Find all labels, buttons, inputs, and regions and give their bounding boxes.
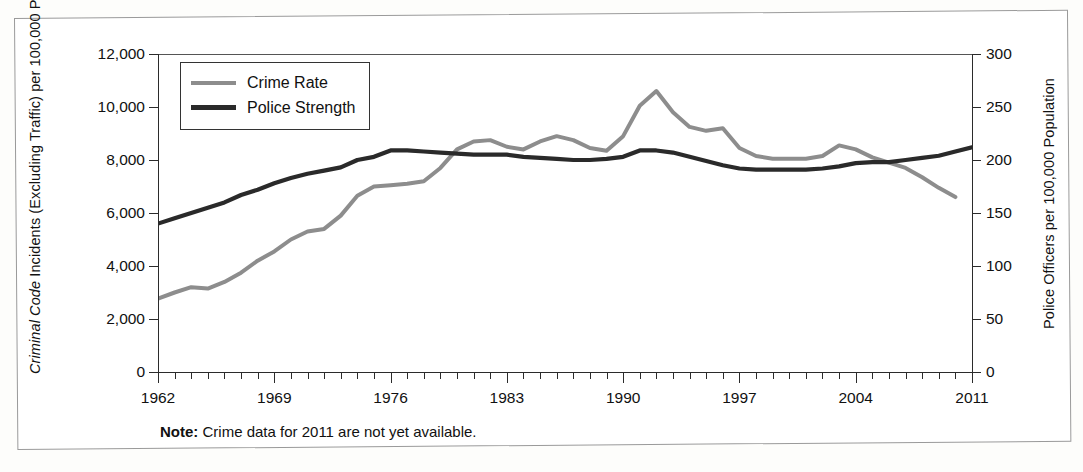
- x-tick-minor: [308, 372, 309, 379]
- x-tick-minor: [490, 372, 491, 379]
- y-tick-left: [149, 160, 158, 161]
- x-tick-minor: [773, 372, 774, 379]
- line-chart: Criminal Code Incidents (Excluding Traff…: [0, 0, 1083, 472]
- x-tick-minor: [474, 372, 475, 379]
- y-tick-left: [149, 54, 158, 55]
- y-tick-label-left: 12,000: [98, 45, 145, 63]
- y-tick-label-right: 0: [986, 363, 995, 381]
- x-tick-minor: [906, 372, 907, 379]
- x-tick-minor: [955, 372, 956, 379]
- y-axis-left-title-italic: Criminal Code: [27, 281, 43, 374]
- x-tick-minor: [723, 372, 724, 379]
- x-tick-minor: [241, 372, 242, 379]
- y-tick-label-left: 2,000: [106, 310, 145, 328]
- y-tick-label-left: 6,000: [106, 204, 145, 222]
- x-tick-minor: [457, 372, 458, 379]
- y-tick-right: [972, 213, 981, 214]
- y-tick-label-right: 150: [986, 204, 1012, 222]
- legend-label-police-strength: Police Strength: [247, 99, 356, 117]
- y-tick-label-right: 50: [986, 310, 1003, 328]
- x-tick-minor: [424, 372, 425, 379]
- x-tick-minor: [557, 372, 558, 379]
- y-axis-left-title-rest: Incidents (Excluding Traffic) per 100,00…: [27, 0, 43, 281]
- x-tick-major: [856, 372, 857, 383]
- y-tick-left: [149, 372, 158, 373]
- x-tick-minor: [341, 372, 342, 379]
- y-tick-right: [972, 319, 981, 320]
- x-tick-minor: [839, 372, 840, 379]
- x-tick-major: [274, 372, 275, 383]
- y-axis-left-title: Criminal Code Incidents (Excluding Traff…: [26, 34, 44, 374]
- x-tick-minor: [822, 372, 823, 379]
- y-tick-right: [972, 54, 981, 55]
- y-tick-right: [972, 266, 981, 267]
- y-tick-right: [972, 372, 981, 373]
- x-tick-label: 1962: [141, 389, 175, 407]
- legend: Crime Rate Police Strength: [180, 62, 370, 130]
- legend-label-crime-rate: Crime Rate: [247, 74, 328, 92]
- x-tick-major: [391, 372, 392, 383]
- x-tick-label: 1976: [373, 389, 407, 407]
- x-tick-minor: [357, 372, 358, 379]
- x-tick-minor: [540, 372, 541, 379]
- x-tick-minor: [440, 372, 441, 379]
- chart-note-prefix: Note:: [160, 423, 198, 440]
- legend-swatch-crime-rate: [191, 81, 236, 85]
- x-tick-minor: [806, 372, 807, 379]
- x-axis-line: [158, 372, 972, 373]
- x-tick-label: 1969: [257, 389, 291, 407]
- x-tick-label: 1990: [606, 389, 640, 407]
- x-tick-minor: [291, 372, 292, 379]
- legend-item-police-strength: Police Strength: [191, 95, 359, 120]
- x-tick-minor: [258, 372, 259, 379]
- x-tick-minor: [640, 372, 641, 379]
- x-tick-minor: [789, 372, 790, 379]
- y-tick-label-right: 250: [986, 98, 1012, 116]
- y-tick-right: [972, 107, 981, 108]
- x-tick-minor: [673, 372, 674, 379]
- x-tick-minor: [706, 372, 707, 379]
- x-tick-minor: [607, 372, 608, 379]
- x-tick-minor: [590, 372, 591, 379]
- x-tick-major: [972, 372, 973, 383]
- y-tick-label-right: 300: [986, 45, 1012, 63]
- y-tick-left: [149, 213, 158, 214]
- chart-note-text: Crime data for 2011 are not yet availabl…: [198, 423, 476, 440]
- x-tick-label: 1997: [722, 389, 756, 407]
- plot-top-rule: [158, 54, 972, 55]
- y-tick-left: [149, 319, 158, 320]
- y-tick-left: [149, 107, 158, 108]
- x-tick-minor: [690, 372, 691, 379]
- x-tick-minor: [573, 372, 574, 379]
- y-tick-label-left: 8,000: [106, 151, 145, 169]
- series-line-police-strength: [158, 147, 972, 223]
- x-tick-minor: [374, 372, 375, 379]
- y-axis-right-title: Police Officers per 100,000 Population: [1040, 34, 1058, 374]
- x-tick-minor: [208, 372, 209, 379]
- x-tick-major: [623, 372, 624, 383]
- x-tick-minor: [756, 372, 757, 379]
- x-tick-label: 2004: [838, 389, 872, 407]
- x-tick-minor: [922, 372, 923, 379]
- x-tick-minor: [324, 372, 325, 379]
- y-tick-label-left: 10,000: [98, 98, 145, 116]
- chart-note: Note: Crime data for 2011 are not yet av…: [160, 423, 477, 440]
- x-tick-label: 1983: [490, 389, 524, 407]
- x-tick-minor: [889, 372, 890, 379]
- x-tick-minor: [191, 372, 192, 379]
- x-tick-minor: [523, 372, 524, 379]
- y-tick-label-left: 0: [136, 363, 145, 381]
- x-tick-minor: [872, 372, 873, 379]
- x-tick-minor: [175, 372, 176, 379]
- x-tick-minor: [656, 372, 657, 379]
- x-tick-label: 2011: [955, 389, 988, 407]
- y-tick-label-right: 200: [986, 151, 1012, 169]
- legend-item-crime-rate: Crime Rate: [191, 70, 359, 95]
- x-tick-minor: [224, 372, 225, 379]
- legend-swatch-police-strength: [191, 105, 236, 110]
- x-tick-major: [739, 372, 740, 383]
- x-tick-major: [507, 372, 508, 383]
- x-tick-major: [158, 372, 159, 383]
- y-axis-left-line: [158, 54, 159, 372]
- y-tick-left: [149, 266, 158, 267]
